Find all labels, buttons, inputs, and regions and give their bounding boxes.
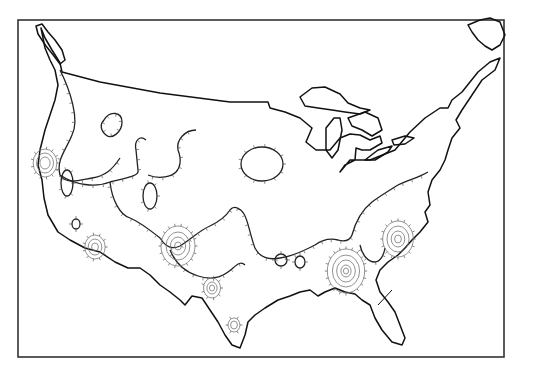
hachure-tick	[110, 170, 112, 172]
hachure-tick	[230, 331, 231, 333]
hachure-tick	[40, 176, 41, 178]
hachure-tick	[155, 235, 157, 237]
isoline-ring	[207, 282, 217, 294]
hachure-tick	[274, 148, 276, 150]
contour-southeast-arm	[360, 245, 385, 262]
hachure-tick	[154, 183, 156, 185]
hachure-tick	[329, 257, 331, 258]
hachure-tick	[107, 116, 109, 118]
contour-gulf-coast-band	[280, 235, 352, 258]
hachure-tick	[357, 251, 358, 253]
hachure-tick	[121, 214, 123, 216]
hachure-tick	[87, 256, 89, 258]
hachure-tick	[361, 257, 363, 258]
hachure-tick	[339, 292, 340, 294]
hachure-tick	[237, 317, 238, 319]
isoline-ring	[37, 153, 54, 173]
hachure-tick	[295, 254, 296, 257]
hachure-tick	[304, 251, 305, 254]
hachure-tick	[56, 155, 58, 156]
hachure-tick	[409, 252, 411, 254]
closed-contour-sw-tiny	[295, 256, 305, 268]
hachure-tick	[404, 220, 405, 222]
hachure-tick	[180, 138, 182, 140]
hachure-tick	[350, 238, 352, 240]
hachure-tick	[391, 220, 392, 222]
hachure-tick	[231, 270, 233, 272]
hachure-tick	[229, 211, 232, 213]
hachure-tick	[71, 193, 73, 195]
hachure-tick	[71, 170, 73, 172]
hachure-tick	[329, 284, 331, 285]
hachure-tick	[202, 284, 204, 285]
hachure-tick	[412, 231, 414, 232]
isoline-ring	[343, 268, 348, 274]
hachure-tick	[281, 155, 284, 156]
map-frame	[18, 20, 504, 357]
hachure-tick	[393, 188, 395, 191]
hachure-tick	[194, 253, 196, 254]
us-outline	[38, 28, 500, 348]
hachure-tick	[99, 258, 100, 260]
hachure-tick	[34, 172, 36, 174]
hachure-tick	[187, 263, 188, 265]
hachure-tick	[364, 263, 366, 264]
hachure-tick	[359, 250, 362, 251]
hachure-tick	[31, 166, 33, 167]
hachure-tick	[244, 175, 246, 177]
maximum-s-california	[83, 233, 108, 262]
hachure-tick	[179, 167, 182, 168]
hachure-tick	[114, 206, 117, 207]
hachure-tick	[244, 151, 246, 153]
isoline-ring	[204, 278, 221, 298]
hachure-tick	[409, 225, 411, 227]
contour-nw-lobe	[59, 70, 120, 181]
hachure-tick	[103, 130, 105, 132]
hachure-tick	[188, 132, 189, 135]
hachure-tick	[281, 172, 284, 173]
hachure-tick	[385, 225, 387, 227]
newfoundland	[468, 18, 505, 50]
hachure-tick	[99, 234, 100, 236]
isoline-ring	[395, 235, 402, 243]
hachure-tick	[404, 256, 405, 258]
hachure-tick	[187, 227, 188, 229]
contour-west-central	[148, 130, 196, 177]
contour-east-band	[352, 172, 428, 235]
closed-contour-az-small	[72, 219, 80, 229]
contour-n-plains-loop	[101, 113, 122, 136]
hachure-tick	[391, 256, 392, 258]
isoline-ring	[166, 232, 190, 260]
hachure-tick	[412, 179, 413, 182]
hachure-tick	[362, 212, 364, 214]
closed-contour-colo-oval	[143, 183, 157, 209]
isoline-ring	[387, 226, 409, 252]
hachure-tick	[117, 163, 119, 165]
closed-contour-iowa-ellipse	[241, 147, 283, 181]
hachure-tick	[198, 233, 200, 235]
hachure-tick	[83, 250, 85, 251]
hachure-tick	[219, 294, 221, 296]
hachure-tick	[117, 129, 119, 131]
hachure-tick	[219, 280, 221, 282]
maximum-s-texas	[226, 317, 243, 333]
hachure-tick	[102, 122, 105, 123]
hachure-tick	[176, 263, 178, 265]
hachure-tick	[70, 131, 73, 132]
hachure-tick	[361, 284, 363, 285]
hachure-tick	[256, 253, 258, 255]
hachure-tick	[137, 140, 139, 142]
hachure-tick	[382, 231, 384, 232]
hachure-tick	[313, 246, 314, 249]
isoline-ring	[327, 249, 364, 293]
hachure-tick	[237, 331, 238, 333]
hachure-tick	[62, 149, 65, 150]
isoline-ring	[341, 265, 351, 277]
hachure-tick	[334, 251, 335, 253]
maximum-mississippi-alabama	[325, 247, 367, 296]
hachure-tick	[52, 149, 53, 151]
contour-central-descender	[110, 182, 210, 248]
vancouver-island	[36, 24, 65, 64]
hachure-tick	[326, 278, 328, 279]
hachure-tick	[214, 224, 215, 227]
